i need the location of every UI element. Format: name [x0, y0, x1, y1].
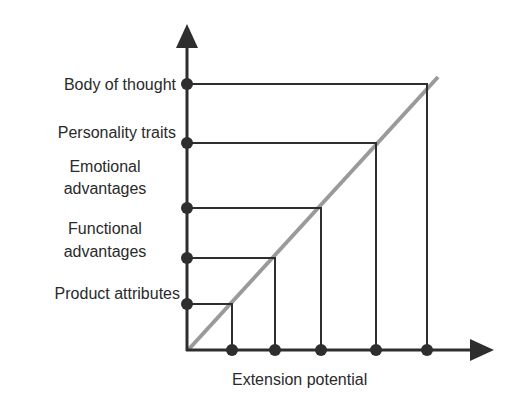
- diagonal-line: [189, 77, 438, 349]
- label-emotional-advantages: advantages: [50, 179, 160, 198]
- y-axis-arrow-icon: [176, 24, 198, 48]
- label-personality-traits: Personality traits: [58, 123, 176, 142]
- x-dot-product: [226, 344, 238, 356]
- y-dot-functional: [181, 252, 193, 264]
- x-dot-emotional: [315, 344, 327, 356]
- label-body-of-thought: Body of thought: [64, 75, 176, 94]
- y-dot-body: [181, 78, 193, 90]
- x-dot-personality: [370, 344, 382, 356]
- x-axis-arrow-icon: [470, 339, 494, 361]
- x-dot-body: [421, 344, 433, 356]
- y-dot-emotional: [181, 202, 193, 214]
- label-functional-advantages: advantages: [50, 242, 160, 261]
- y-dot-personality: [181, 137, 193, 149]
- label-emotional: Emotional: [50, 157, 160, 176]
- x-dot-functional: [269, 344, 281, 356]
- x-axis-label: Extension potential: [232, 370, 367, 389]
- label-product-attributes: Product attributes: [55, 284, 180, 303]
- label-functional: Functional: [50, 219, 160, 238]
- y-dot-product: [181, 298, 193, 310]
- extension-diagram: [0, 0, 506, 410]
